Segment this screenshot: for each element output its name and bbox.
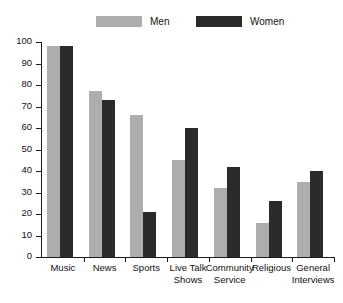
y-tick: 40: [0, 171, 42, 172]
legend-label-men: Men: [150, 16, 169, 27]
y-tick-label: 80: [21, 78, 32, 90]
bar-men: [297, 182, 310, 257]
y-tick-label: 40: [21, 164, 32, 176]
bar-men: [256, 223, 269, 257]
x-axis-line: [41, 257, 334, 258]
y-tick: 80: [0, 85, 42, 86]
legend-item-men: Men: [96, 14, 169, 28]
bar-women: [227, 167, 240, 257]
y-tick-label: 50: [21, 143, 32, 155]
y-tick-label: 70: [21, 100, 32, 112]
x-axis-labels: MusicNewsSportsLive Talk ShowsCommunity …: [42, 262, 334, 302]
bar-men: [130, 115, 143, 257]
bar-men: [214, 188, 227, 257]
y-tick-label: 100: [16, 35, 32, 47]
y-tick: 90: [0, 64, 42, 65]
plot-area: 1009080706050403020100: [42, 42, 334, 257]
bar-group: [125, 42, 167, 257]
bar-group: [251, 42, 293, 257]
bar-groups: [42, 42, 334, 257]
legend-swatch-women: [196, 16, 242, 27]
bar-men: [172, 160, 185, 257]
y-tick-label: 60: [21, 121, 32, 133]
y-tick-label: 10: [21, 229, 32, 241]
y-tick: 10: [0, 236, 42, 237]
y-tick: 50: [0, 150, 42, 151]
legend-swatch-men: [96, 16, 142, 27]
y-tick: 60: [0, 128, 42, 129]
bar-group: [84, 42, 126, 257]
bar-men: [89, 91, 102, 257]
bar-women: [60, 46, 73, 257]
y-tick-label: 30: [21, 186, 32, 198]
y-tick: 20: [0, 214, 42, 215]
legend-item-women: Women: [196, 14, 284, 28]
y-tick-label: 90: [21, 57, 32, 69]
y-tick-label: 0: [27, 250, 32, 262]
y-tick: 0: [0, 257, 42, 258]
bar-women: [269, 201, 282, 257]
y-tick-label: 20: [21, 207, 32, 219]
bar-men: [47, 46, 60, 257]
bar-group: [167, 42, 209, 257]
bar-women: [310, 171, 323, 257]
bar-group: [42, 42, 84, 257]
bar-women: [185, 128, 198, 257]
bar-women: [143, 212, 156, 257]
x-axis-label: General Interviews: [286, 262, 340, 285]
chart-legend: Men Women: [0, 13, 343, 33]
y-tick: 100: [0, 42, 42, 43]
y-tick: 70: [0, 107, 42, 108]
bar-group: [292, 42, 334, 257]
bar-women: [102, 100, 115, 257]
bar-group: [209, 42, 251, 257]
bar-chart: Men Women 1009080706050403020100 MusicNe…: [0, 0, 343, 303]
y-tick-mark: [36, 257, 42, 258]
y-tick: 30: [0, 193, 42, 194]
legend-label-women: Women: [250, 16, 284, 27]
